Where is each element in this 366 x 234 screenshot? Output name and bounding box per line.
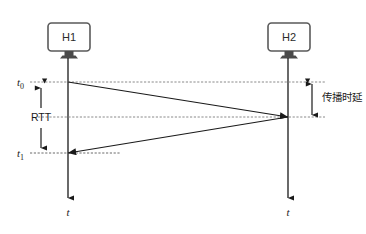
time-axis-label-h2: t xyxy=(286,206,290,218)
monitor-neck-h2 xyxy=(285,51,294,56)
host-h1: H1 xyxy=(48,23,90,59)
monitor-neck-h1 xyxy=(65,51,74,56)
timing-diagram: H1 H2 RTT 传播时延 xyxy=(0,0,366,234)
monitor-base-h1 xyxy=(60,56,78,59)
rtt-label: RTT xyxy=(31,111,52,123)
time-marker-t0: t0 xyxy=(17,76,24,91)
message-arrow-request xyxy=(68,82,288,117)
propagation-delay-measure: 传播时延 xyxy=(312,84,363,115)
tick-marker-t0 xyxy=(42,78,47,83)
host-h1-label: H1 xyxy=(62,31,76,43)
tick-marker-t0-right xyxy=(305,78,310,83)
rtt-measure: RTT xyxy=(31,88,52,148)
diagram-canvas: H1 H2 RTT 传播时延 xyxy=(0,0,366,234)
host-h2-label: H2 xyxy=(282,31,296,43)
time-marker-t1-sub: 1 xyxy=(20,153,24,162)
time-axis-label-h1: t xyxy=(66,206,70,218)
time-marker-t1: t1 xyxy=(17,147,24,162)
message-arrow-reply xyxy=(68,117,288,153)
host-h2: H2 xyxy=(268,23,310,59)
monitor-base-h2 xyxy=(280,56,298,59)
time-marker-t0-sub: 0 xyxy=(20,82,24,91)
propagation-delay-label: 传播时延 xyxy=(322,91,363,103)
